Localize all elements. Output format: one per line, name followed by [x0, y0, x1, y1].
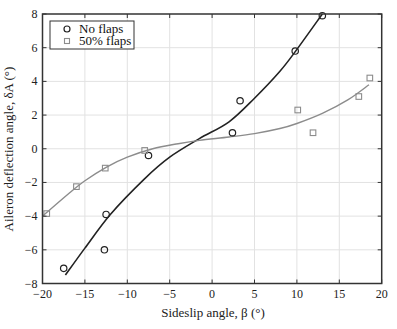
y-tick-label: −6 [25, 243, 38, 257]
point-no-flaps [103, 211, 109, 217]
y-tick-labels: −8−6−4−202468 [25, 7, 38, 291]
y-axis-title: Aileron deflection angle, δA (°) [1, 67, 16, 232]
y-tick-label: −4 [25, 209, 38, 223]
point-no-flaps [237, 98, 243, 104]
x-tick-label: 10 [291, 287, 303, 301]
grid [43, 14, 382, 284]
fit-curves [43, 14, 369, 275]
y-tick-label: 2 [32, 108, 38, 122]
y-tick-label: 8 [32, 7, 38, 21]
x-tick-label: 5 [252, 287, 258, 301]
x-tick-label: 20 [376, 287, 388, 301]
fit-curve-50-flaps [43, 85, 369, 216]
y-tick-label: 0 [32, 142, 38, 156]
legend-label-50-flaps: 50% flaps [79, 33, 131, 48]
y-tick-label: 4 [32, 74, 38, 88]
x-tick-label: −10 [118, 287, 137, 301]
x-tick-label: −5 [163, 287, 176, 301]
x-tick-label: 15 [333, 287, 345, 301]
x-tick-label: −15 [76, 287, 95, 301]
y-tick-label: 6 [32, 41, 38, 55]
point-50-flaps [295, 107, 301, 113]
point-50-flaps [367, 75, 373, 81]
point-50-flaps [310, 130, 316, 136]
legend: No flaps 50% flaps [50, 21, 134, 49]
point-no-flaps [61, 265, 67, 271]
point-no-flaps [229, 130, 235, 136]
x-tick-label: 0 [209, 287, 215, 301]
fit-curve-no-flaps [65, 14, 322, 275]
x-tick-labels: −20−15−10−505101520 [33, 287, 388, 301]
y-tick-label: −8 [25, 277, 38, 291]
data-markers [44, 12, 373, 271]
chart: −20−15−10−505101520 −8−6−4−202468 Sidesl… [0, 0, 397, 329]
x-axis-title: Sideslip angle, β (°) [161, 305, 265, 320]
y-tick-label: −2 [25, 175, 38, 189]
